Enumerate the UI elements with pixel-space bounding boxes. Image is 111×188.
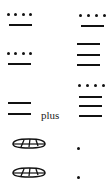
bar-five <box>77 54 100 56</box>
bar-five <box>79 105 102 107</box>
dots-four <box>7 13 32 16</box>
bar-five <box>79 96 102 98</box>
dots-four <box>7 52 32 55</box>
plus-label: plus <box>41 110 59 121</box>
bar-five <box>9 24 32 26</box>
bar-five <box>8 102 31 104</box>
dot <box>14 13 17 16</box>
dot-one <box>77 147 80 150</box>
bar-five <box>79 115 102 117</box>
dot <box>22 52 25 55</box>
dot <box>29 52 32 55</box>
dot <box>7 52 10 55</box>
dot <box>94 84 97 87</box>
dot <box>14 52 17 55</box>
bar-five <box>8 113 31 115</box>
bar-five <box>8 63 31 65</box>
dot <box>29 13 32 16</box>
dot <box>79 14 82 17</box>
dot <box>87 14 90 17</box>
dot <box>103 14 106 17</box>
bar-five <box>77 43 100 45</box>
bar-five <box>77 64 100 66</box>
dot <box>86 84 89 87</box>
dot-one <box>77 176 80 179</box>
dot <box>102 84 105 87</box>
dot <box>22 13 25 16</box>
dot <box>78 84 81 87</box>
dot <box>7 13 10 16</box>
dots-four <box>78 84 105 87</box>
dot <box>95 14 98 17</box>
dots-four <box>79 14 106 17</box>
shell-zero-icon <box>11 136 47 150</box>
shell-zero-icon <box>11 165 47 179</box>
bar-five <box>81 25 104 27</box>
